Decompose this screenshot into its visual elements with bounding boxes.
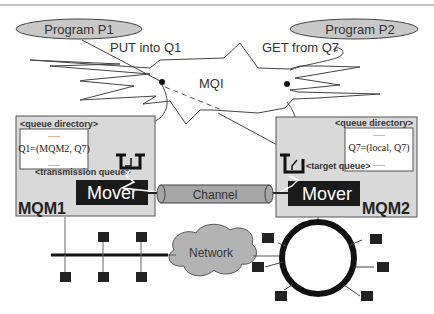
- program-p1[interactable]: Program P1: [16, 19, 142, 39]
- lan-bus-network: [51, 217, 168, 282]
- queue-manager-mqm1[interactable]: <queue directory> ...... Q1=(MQM2, Q7) .…: [16, 116, 158, 217]
- network-label: Network: [189, 246, 234, 260]
- mqm2-mover-label: Mover: [302, 184, 352, 204]
- get-action-label: GET from Q7: [262, 40, 339, 55]
- network-node: [252, 262, 264, 272]
- channel[interactable]: Channel: [148, 185, 288, 203]
- network-node: [98, 272, 109, 282]
- mqi-entry-dot-p2: [284, 81, 290, 87]
- mqm1-dir-line-1: ......: [48, 130, 60, 139]
- mq-architecture-diagram: Program P1 Program P2 PUT into Q1 GET fr…: [0, 0, 434, 314]
- mqm1-mover-label: Mover: [87, 183, 137, 203]
- network-node: [370, 234, 382, 244]
- network-node: [98, 232, 109, 242]
- mqm1-name: MQM1: [18, 200, 66, 217]
- network-node: [60, 272, 71, 282]
- mqm1-directory-label: <queue directory>: [20, 119, 98, 129]
- mqm2-directory-label: <queue directory>: [335, 118, 413, 128]
- network-node: [136, 232, 147, 242]
- program-p1-label: Program P1: [44, 22, 113, 37]
- mqm1-queue-label: <transmission queue>: [35, 167, 131, 177]
- mqi-label: MQI: [199, 76, 224, 91]
- network-node: [262, 233, 274, 243]
- channel-label: Channel: [193, 188, 238, 202]
- program-p2-label: Program P2: [325, 22, 394, 37]
- mqm2-name: MQM2: [362, 200, 410, 217]
- network-node: [377, 262, 389, 272]
- put-action-label: PUT into Q1: [110, 40, 181, 55]
- mqm2-dir-line-2: Q7=(local, Q7): [348, 142, 409, 154]
- mqm2-queue-label: <target queue>: [306, 161, 371, 171]
- mqi-entry-dot-p1: [159, 79, 165, 85]
- network-node: [136, 272, 147, 282]
- network-cloud[interactable]: Network: [169, 224, 256, 275]
- network-node: [361, 291, 373, 301]
- network-node: [275, 291, 287, 301]
- mqm2-dir-line-1: ......: [373, 129, 385, 138]
- mqm1-dir-line-2: Q1=(MQM2, Q7): [18, 143, 90, 155]
- mqm2-dir-line-3: ......: [373, 159, 385, 168]
- queue-manager-mqm2[interactable]: <queue directory> ...... Q7=(local, Q7) …: [276, 117, 417, 217]
- ring-network: [252, 217, 389, 301]
- program-p2[interactable]: Program P2: [290, 19, 418, 39]
